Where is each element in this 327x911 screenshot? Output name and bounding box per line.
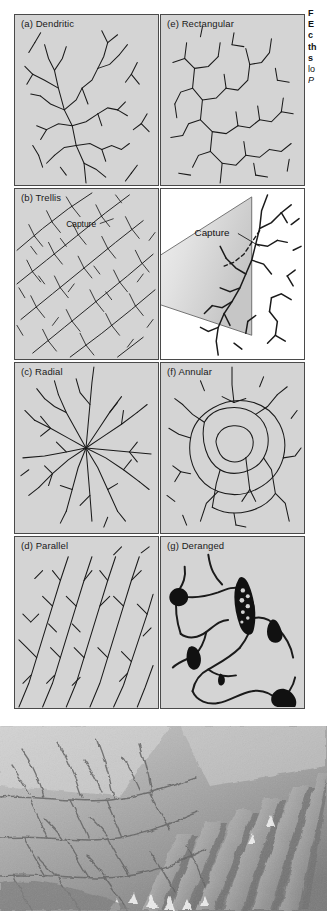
panel-label-rectangular: (e) Rectangular [167,18,234,29]
caption-line: P [308,86,327,88]
panel-radial: (c) Radial [14,362,159,534]
caption-line: P [308,75,327,86]
panel-label-annular: (f) Annular [167,366,212,377]
terrain-photograph [0,726,327,911]
deranged-stream-network [161,537,304,708]
panel-label-parallel: (d) Parallel [21,540,68,551]
parallel-stream-network [15,537,158,708]
panel-rectangular: (e) Rectangular [160,14,305,186]
capture-label-inset: Capture [195,227,231,238]
magnifier-wedge [161,197,252,335]
rectangular-stream-network [161,15,304,185]
dendritic-stream-network [15,15,158,185]
panel-trellis: (b) Trellis [14,188,159,360]
panel-label-radial: (c) Radial [21,366,63,377]
caption-line: th [308,42,327,53]
panel-dendritic: (a) Dendritic [14,14,159,186]
trellis-stream-network: Capture [15,189,158,359]
caption-line: lo [308,64,327,75]
panel-deranged: (g) Deranged [160,536,305,709]
panel-label-trellis: (b) Trellis [21,192,61,203]
capture-label-small: Capture [66,219,96,229]
panel-label-dendritic: (a) Dendritic [21,18,74,29]
caption-line: F [308,8,327,19]
caption-line: c [308,30,327,41]
caption-line: E [308,19,327,30]
panel-label-deranged: (g) Deranged [167,540,224,551]
caption-line: s [308,53,327,64]
figure-caption: F E c th s lo P P [308,8,327,88]
panel-parallel: (d) Parallel [14,536,159,709]
panel-capture-inset: Capture [160,188,305,360]
annular-stream-network [161,363,304,533]
radial-stream-network [15,363,158,533]
panel-annular: (f) Annular [160,362,305,534]
drainage-pattern-figure: (a) Dendritic [14,14,305,709]
capture-magnification-inset: Capture [161,189,304,359]
shaded-relief-image [0,726,327,911]
